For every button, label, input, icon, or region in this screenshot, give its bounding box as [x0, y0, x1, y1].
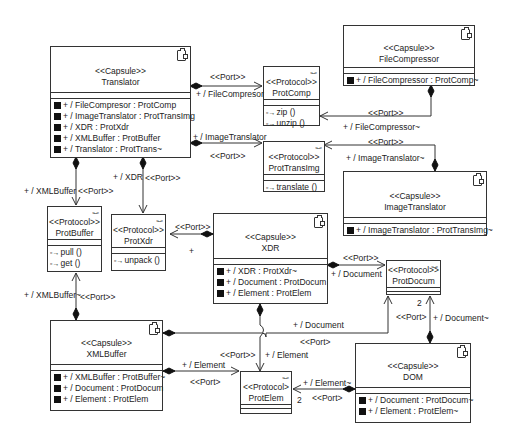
port-icon	[54, 374, 61, 381]
port-row[interactable]: + / Document : ProtDocum	[54, 383, 159, 394]
operation-icon: ▫→	[50, 258, 59, 269]
label-port: <<Port>>	[80, 292, 115, 302]
label-file-compresor: + / FileCompresor	[196, 89, 264, 99]
capsule-translator[interactable]: <<Capsule>> Translator + / FileCompresor…	[50, 46, 191, 158]
operation-icon: ▫→	[266, 107, 275, 118]
protocol-name: ProtDocum	[387, 276, 440, 287]
capsule-xmlbuffer[interactable]: <<Capsule>> XMLBuffer + / XMLBuffer : Pr…	[50, 320, 163, 411]
capsule-name: ImageTranslator	[344, 202, 486, 213]
label-port: <<Port>>	[78, 186, 113, 196]
label-port: <<Port>	[190, 377, 220, 387]
label-file-compressor-conj: + / FileCompressor~	[343, 122, 420, 132]
port-row[interactable]: + / Element : ProtElem~	[359, 406, 467, 417]
label-element-conj: + / Element~	[303, 378, 351, 388]
protocol-protdocum[interactable]: ▫–▫ <<Protocol>> ProtDocum	[386, 260, 441, 295]
port-row[interactable]: + / FileCompresor : ProtComp	[54, 100, 187, 111]
capsule-name: XDR	[214, 243, 327, 254]
label-image-translator-conj: + / ImageTranslator~	[346, 153, 425, 163]
label-port: <<Port>>	[368, 137, 403, 147]
capsule-imagetranslator[interactable]: <<Capsule>> ImageTranslator + / ImageTra…	[343, 171, 487, 236]
port-row[interactable]: + / ImageTranslator : ProtTransImg	[54, 111, 187, 122]
protocol-protelem[interactable]: ▫–▫ <<Protocol> ProtElem	[240, 371, 292, 414]
port-icon	[359, 397, 366, 404]
label-xdr: + / XDR	[113, 172, 143, 182]
label-multiplicity: 2	[297, 395, 302, 405]
operation-row[interactable]: ▫→pull ()	[50, 247, 99, 258]
protocol-protbuffer[interactable]: ▫–▫ <<Protocol>> ProtBuffer ▫→pull () ▫→…	[47, 206, 102, 272]
operation-icon: ▫→	[114, 255, 123, 266]
port-icon	[217, 279, 224, 286]
protocol-prottransimg[interactable]: ▫–▫ <<Protocol>> ProtTransImg ▫→translat…	[263, 141, 325, 192]
label-port: <<Port>	[300, 337, 330, 347]
label-plus: +	[189, 246, 194, 256]
stereotype: <<Capsule>>	[344, 191, 486, 202]
operation-row[interactable]: ▫→get ()	[50, 258, 99, 269]
stereotype: <<Capsule>>	[51, 66, 190, 77]
stereotype: <<Protocol>>	[387, 265, 440, 276]
port-row[interactable]: + / Translator : ProtTrans~	[54, 144, 187, 155]
label-port: <<Port>>	[145, 173, 180, 183]
port-icon	[217, 290, 224, 297]
port-row[interactable]: + / Document : ProtDocum	[217, 277, 324, 288]
capsule-dom[interactable]: <<Capsule>> DOM + / Document : ProtDocum…	[355, 343, 471, 423]
port-icon	[359, 408, 366, 415]
label-port: <<Port>>	[220, 350, 255, 360]
stereotype: <<Protocol>>	[112, 225, 165, 236]
port-icon	[54, 113, 61, 120]
stereotype: <<Capsule>>	[214, 232, 327, 243]
protocol-name: ProtXdr	[112, 236, 165, 247]
port-row[interactable]: + / XMLBuffer : ProtBuffer	[54, 133, 187, 144]
label-port: <<Port>>	[368, 108, 403, 118]
port-icon	[54, 146, 61, 153]
stereotype: <<Capsule>>	[344, 43, 474, 54]
protocol-protcomp[interactable]: ▫–▫ <<Protocol>> ProtComp ▫→zip () ▫→unz…	[263, 66, 320, 126]
operation-row[interactable]: ▫→unpack ()	[114, 255, 163, 266]
label-element: + / Element	[182, 360, 225, 370]
port-row[interactable]: + / XMLBuffer : ProtBuffer~	[54, 372, 159, 383]
port-icon	[347, 227, 354, 234]
capsule-name: FileCompressor	[344, 54, 474, 65]
connector-xdr-protelem	[260, 304, 264, 371]
capsule-filecompressor[interactable]: <<Capsule>> FileCompressor + / FileCompr…	[343, 25, 475, 86]
operation-row[interactable]: ▫→unzip ()	[266, 118, 317, 129]
operation-icon: ▫→	[266, 118, 275, 129]
label-port: <<Port>>	[343, 253, 378, 263]
protocol-name: ProtBuffer	[48, 228, 101, 239]
label-document-conj: + / Document~	[433, 313, 489, 323]
port-icon	[54, 385, 61, 392]
port-row[interactable]: + / Document : ProtDocum~	[359, 395, 467, 406]
stereotype: <<Protocol>	[241, 382, 291, 393]
operation-icon: ▫→	[50, 247, 59, 258]
protocol-name: ProtTransImg	[264, 163, 324, 174]
capsule-name: DOM	[356, 372, 470, 383]
protocol-name: ProtComp	[264, 88, 319, 99]
operation-row[interactable]: ▫→zip ()	[266, 107, 317, 118]
label-port: <<Port>>	[210, 72, 245, 82]
port-icon	[347, 77, 354, 84]
port-icon	[217, 268, 224, 275]
stereotype: <<Protocol>>	[48, 217, 101, 228]
label-port: <<Port>	[396, 312, 426, 322]
protocol-name: ProtElem	[241, 393, 291, 404]
stereotype: <<Capsule>>	[51, 338, 162, 349]
port-icon	[54, 102, 61, 109]
port-icon	[54, 396, 61, 403]
label-port-xdr: <<Port>>	[175, 222, 210, 232]
port-row[interactable]: + / XDR : ProtXdr	[54, 122, 187, 133]
port-icon	[54, 124, 61, 131]
label-port: <<Port>>	[210, 151, 245, 161]
label-port: <<Port>	[312, 393, 342, 403]
capsule-xdr[interactable]: <<Capsule>> XDR + / XDR : ProtXdr~ + / D…	[213, 213, 328, 304]
capsule-name: Translator	[51, 77, 190, 88]
label-document: + / Document	[293, 320, 344, 330]
port-row[interactable]: + / FileCompressor : ProtComp~	[347, 75, 471, 86]
operation-row[interactable]: ▫→translate ()	[266, 182, 322, 193]
stereotype: <<Capsule>>	[356, 361, 470, 372]
port-row[interactable]: + / ImageTranslator : ProtTransImg~	[347, 225, 483, 236]
port-row[interactable]: + / Element : ProtElem	[217, 288, 324, 299]
protocol-protxdr[interactable]: ▫–▫ <<Protocol>> ProtXdr ▫→unpack ()	[111, 214, 166, 271]
label-multiplicity: 2	[417, 298, 422, 308]
stereotype: <<Protocol>>	[264, 152, 324, 163]
port-row[interactable]: + / Element : ProtElem	[54, 394, 159, 405]
port-row[interactable]: + / XDR : ProtXdr~	[217, 266, 324, 277]
